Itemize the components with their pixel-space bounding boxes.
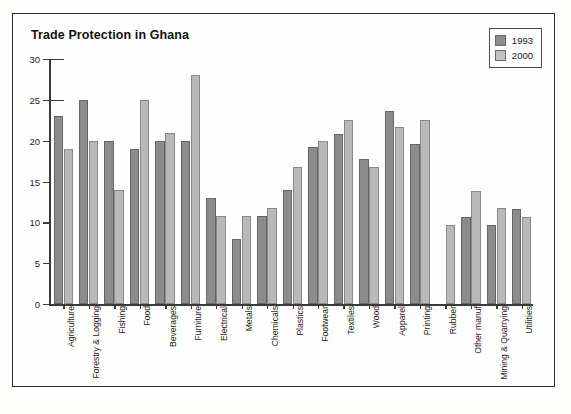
y-tick-label: 15: [29, 176, 40, 187]
bar-group: [436, 59, 455, 304]
bar-group: [232, 59, 251, 304]
bar-group: [79, 59, 98, 304]
x-axis-label: Printing: [423, 306, 432, 335]
x-axis-label: Other manuf: [474, 306, 483, 354]
legend-label-1993: 1993: [512, 35, 533, 46]
bar-group: [155, 59, 174, 304]
x-axis-label: Utilities: [525, 306, 534, 334]
bar[interactable]: [318, 141, 327, 304]
bar[interactable]: [487, 225, 496, 304]
chart-figure-frame: Trade Protection in Ghana 1993 2000 0510…: [12, 13, 555, 387]
x-axis-label: Footwear: [321, 306, 330, 342]
x-axis-label: Textiles: [347, 306, 356, 335]
legend-swatch-1993: [495, 35, 506, 46]
bar[interactable]: [216, 216, 225, 304]
y-tick-label: 10: [29, 217, 40, 228]
bar[interactable]: [385, 111, 394, 304]
bar-group: [512, 59, 531, 304]
x-axis-label: Wood: [372, 306, 381, 328]
x-axis-label: Food: [143, 306, 152, 326]
bar[interactable]: [512, 209, 521, 304]
x-axis-label: Beverages: [169, 306, 178, 347]
bar[interactable]: [283, 190, 292, 304]
bar[interactable]: [395, 127, 404, 304]
bar-group: [359, 59, 378, 304]
bar[interactable]: [165, 133, 174, 305]
bar[interactable]: [104, 141, 113, 304]
bar[interactable]: [308, 147, 317, 304]
y-tick-label: 25: [29, 94, 40, 105]
bar[interactable]: [181, 141, 190, 304]
y-tick-label: 30: [29, 54, 40, 65]
bar[interactable]: [334, 134, 343, 304]
bar[interactable]: [359, 159, 368, 304]
y-tick-label: 5: [35, 258, 40, 269]
x-axis-label: Agriculture: [67, 306, 76, 347]
bar-group: [487, 59, 506, 304]
bar[interactable]: [344, 120, 353, 304]
bar[interactable]: [64, 149, 73, 304]
x-axis-label: Forestry & Logging: [92, 306, 101, 379]
bar-group: [461, 59, 480, 304]
bar[interactable]: [369, 167, 378, 304]
bar[interactable]: [420, 120, 429, 304]
bar[interactable]: [114, 190, 123, 304]
bar[interactable]: [471, 191, 480, 304]
bar[interactable]: [242, 216, 251, 304]
bar-group: [104, 59, 123, 304]
bar-group: [130, 59, 149, 304]
x-axis-label: Plastics: [296, 306, 305, 336]
bar[interactable]: [267, 208, 276, 304]
x-axis-label: Rubber: [449, 306, 458, 334]
bar-group: [334, 59, 353, 304]
bar[interactable]: [257, 216, 266, 304]
bar-group: [181, 59, 200, 304]
x-axis-label: Furniture: [194, 306, 203, 340]
bar[interactable]: [79, 100, 88, 304]
bar-group: [385, 59, 404, 304]
y-tick-mark: [43, 304, 49, 305]
bar-group: [410, 59, 429, 304]
x-axis-category-labels: AgricultureForestry & LoggingFishingFood…: [49, 306, 533, 396]
bar-group: [308, 59, 327, 304]
bar[interactable]: [461, 217, 470, 304]
bar[interactable]: [206, 198, 215, 304]
x-axis-label: Chemicals: [271, 306, 280, 346]
x-axis-label: Fishing: [118, 306, 127, 334]
bars-layer: [49, 59, 533, 304]
bar[interactable]: [140, 100, 149, 304]
x-axis-label: Metals: [245, 306, 254, 331]
y-tick-label: 20: [29, 135, 40, 146]
bar-group: [257, 59, 276, 304]
bar[interactable]: [497, 208, 506, 304]
bar[interactable]: [410, 144, 419, 304]
bar[interactable]: [155, 141, 164, 304]
legend-item-1993[interactable]: 1993: [495, 33, 533, 48]
x-axis-label: Apparel: [398, 306, 407, 336]
bar[interactable]: [89, 141, 98, 304]
chart-title: Trade Protection in Ghana: [31, 28, 189, 42]
bar-group: [283, 59, 302, 304]
bar[interactable]: [293, 167, 302, 304]
bar[interactable]: [191, 75, 200, 304]
bar[interactable]: [522, 217, 531, 304]
x-axis-label: Electrical: [220, 306, 229, 341]
y-tick-label: 0: [35, 299, 40, 310]
bar[interactable]: [130, 149, 139, 304]
bar-group: [206, 59, 225, 304]
x-axis-label: Mining & Quarrying: [500, 306, 509, 380]
plot-area: 051015202530: [49, 59, 533, 304]
bar[interactable]: [232, 239, 241, 304]
bar-group: [54, 59, 73, 304]
bar[interactable]: [54, 116, 63, 304]
bar[interactable]: [446, 225, 455, 304]
